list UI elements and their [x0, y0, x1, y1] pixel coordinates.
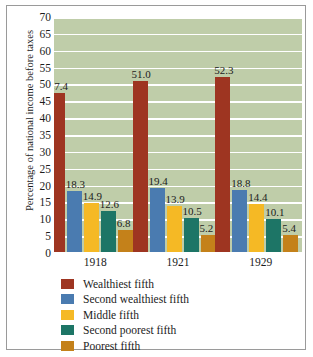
bar: [184, 218, 199, 253]
bar-value-label: 51.0: [132, 68, 151, 80]
bar-value-label: 47.4: [54, 80, 68, 92]
bar-value-label: 19.4: [149, 175, 168, 187]
legend-item: Second wealthiest fifth: [61, 292, 291, 307]
y-axis-tick: 20: [27, 181, 51, 191]
bar: [150, 188, 165, 253]
legend-swatch-icon: [61, 279, 74, 289]
y-axis-tick: 40: [27, 113, 51, 123]
figure-frame: Percentage of national income before tax…: [6, 5, 306, 350]
x-axis-tick-labels: 191819211929: [54, 256, 302, 274]
x-axis-tick: 1921: [137, 256, 220, 268]
bar: [84, 203, 99, 253]
bar-chart: Percentage of national income before tax…: [7, 6, 307, 278]
bar: [232, 190, 247, 253]
bar-value-label: 52.3: [214, 64, 233, 76]
bar: [283, 235, 298, 253]
bar: [101, 211, 116, 253]
y-axis-tick: 60: [27, 46, 51, 56]
bar: [54, 93, 65, 253]
bar-value-label: 10.5: [183, 205, 202, 217]
legend-item: Wealthiest fifth: [61, 276, 291, 291]
plot-region: 47.418.314.912.66.851.019.413.910.55.252…: [54, 17, 302, 253]
legend-swatch-icon: [61, 294, 74, 304]
bar: [167, 206, 182, 253]
y-axis-tick: 10: [27, 214, 51, 224]
chart-legend: Wealthiest fifthSecond wealthiest fifthM…: [61, 276, 291, 354]
bars-layer: 47.418.314.912.66.851.019.413.910.55.252…: [54, 17, 302, 253]
bar: [133, 81, 148, 253]
bar-value-label: 18.3: [66, 178, 85, 190]
x-axis-tick: 1929: [219, 256, 302, 268]
bar: [215, 77, 230, 253]
bar: [266, 219, 281, 253]
legend-label: Poorest fifth: [83, 340, 140, 352]
y-axis-tick: 15: [27, 197, 51, 207]
y-axis-tick: 5: [27, 231, 51, 241]
y-axis-tick-labels: 7065605550454035302520151050: [27, 17, 51, 253]
bar-value-label: 5.4: [282, 222, 296, 234]
bar-value-label: 6.8: [117, 217, 131, 229]
bar-value-label: 5.2: [200, 222, 214, 234]
y-axis-tick: 50: [27, 79, 51, 89]
y-axis-tick: 25: [27, 164, 51, 174]
bar: [201, 235, 216, 253]
y-axis-tick: 65: [27, 29, 51, 39]
bar-value-label: 10.1: [265, 206, 284, 218]
legend-label: Second poorest fifth: [83, 324, 176, 336]
legend-label: Wealthiest fifth: [83, 278, 154, 290]
bar-value-label: 18.8: [231, 177, 250, 189]
x-axis-tick: 1918: [54, 256, 137, 268]
bar: [118, 230, 133, 253]
legend-label: Second wealthiest fifth: [83, 293, 189, 305]
legend-swatch-icon: [61, 310, 74, 320]
bar-value-label: 13.9: [166, 193, 185, 205]
bar-value-label: 12.6: [100, 198, 119, 210]
y-axis-tick: 35: [27, 130, 51, 140]
y-axis-tick: 30: [27, 147, 51, 157]
legend-item: Second poorest fifth: [61, 323, 291, 338]
bar: [249, 204, 264, 253]
legend-swatch-icon: [61, 325, 74, 335]
y-axis-tick: 55: [27, 63, 51, 73]
y-axis-tick: 45: [27, 96, 51, 106]
legend-swatch-icon: [61, 341, 74, 351]
bar-value-label: 14.4: [248, 191, 267, 203]
x-axis-line: [54, 252, 302, 254]
bar: [67, 191, 82, 253]
legend-item: Middle fifth: [61, 307, 291, 322]
y-axis-tick: 70: [27, 12, 51, 22]
legend-label: Middle fifth: [83, 309, 139, 321]
legend-item: Poorest fifth: [61, 338, 291, 353]
y-axis-tick: 0: [27, 248, 51, 258]
